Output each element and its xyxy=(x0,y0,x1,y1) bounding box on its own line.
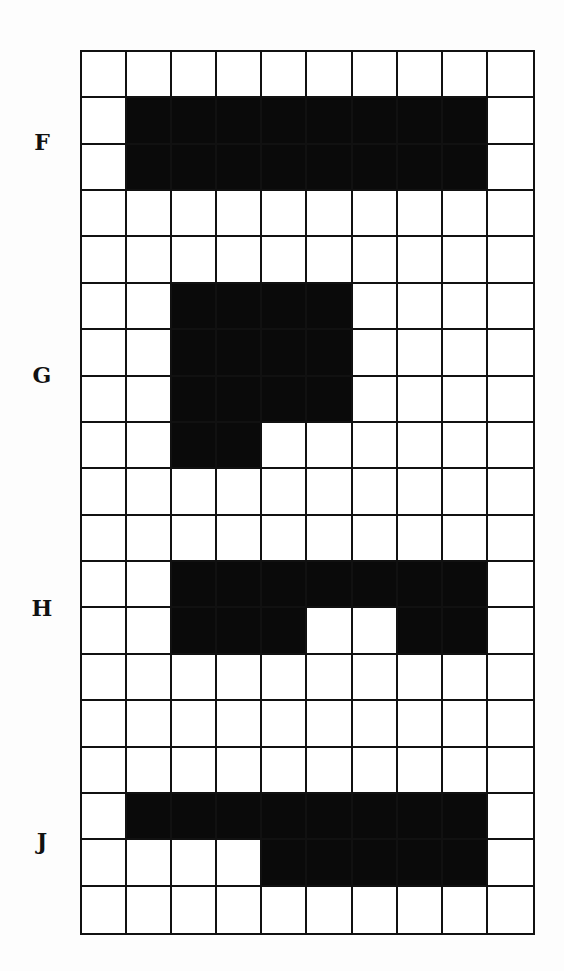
filled-cell xyxy=(353,840,398,886)
empty-cell xyxy=(488,748,533,794)
empty-cell xyxy=(488,377,533,423)
empty-cell xyxy=(488,191,533,237)
empty-cell xyxy=(127,887,172,933)
empty-cell xyxy=(398,330,443,376)
empty-cell xyxy=(353,469,398,515)
empty-cell xyxy=(307,516,352,562)
empty-cell xyxy=(172,840,217,886)
empty-cell xyxy=(307,701,352,747)
empty-cell xyxy=(127,516,172,562)
empty-cell xyxy=(82,608,127,654)
empty-cell xyxy=(353,377,398,423)
empty-cell xyxy=(307,237,352,283)
filled-cell xyxy=(217,330,262,376)
empty-cell xyxy=(172,655,217,701)
figure-label: F xyxy=(30,129,54,155)
filled-cell xyxy=(172,794,217,840)
filled-cell xyxy=(443,840,488,886)
empty-cell xyxy=(217,840,262,886)
filled-cell xyxy=(262,377,307,423)
filled-cell xyxy=(443,145,488,191)
empty-cell xyxy=(353,52,398,98)
empty-cell xyxy=(353,748,398,794)
empty-cell xyxy=(217,748,262,794)
empty-cell xyxy=(443,237,488,283)
empty-cell xyxy=(82,237,127,283)
filled-cell xyxy=(443,608,488,654)
empty-cell xyxy=(307,191,352,237)
empty-cell xyxy=(443,516,488,562)
empty-cell xyxy=(353,330,398,376)
empty-cell xyxy=(443,52,488,98)
filled-cell xyxy=(262,562,307,608)
filled-cell xyxy=(172,377,217,423)
empty-cell xyxy=(443,330,488,376)
filled-cell xyxy=(398,794,443,840)
empty-cell xyxy=(488,237,533,283)
empty-cell xyxy=(353,191,398,237)
empty-cell xyxy=(82,191,127,237)
empty-cell xyxy=(488,655,533,701)
empty-cell xyxy=(172,748,217,794)
filled-cell xyxy=(217,423,262,469)
filled-cell xyxy=(307,562,352,608)
filled-cell xyxy=(262,840,307,886)
filled-cell xyxy=(307,98,352,144)
filled-cell xyxy=(127,794,172,840)
empty-cell xyxy=(172,516,217,562)
empty-cell xyxy=(172,191,217,237)
empty-cell xyxy=(488,794,533,840)
empty-cell xyxy=(398,748,443,794)
empty-cell xyxy=(488,701,533,747)
empty-cell xyxy=(217,469,262,515)
filled-cell xyxy=(353,145,398,191)
empty-cell xyxy=(353,701,398,747)
empty-cell xyxy=(353,284,398,330)
empty-cell xyxy=(488,145,533,191)
empty-cell xyxy=(443,284,488,330)
empty-cell xyxy=(398,237,443,283)
filled-cell xyxy=(172,423,217,469)
filled-cell xyxy=(172,330,217,376)
empty-cell xyxy=(172,887,217,933)
filled-cell xyxy=(217,284,262,330)
empty-cell xyxy=(443,377,488,423)
empty-cell xyxy=(217,887,262,933)
empty-cell xyxy=(127,701,172,747)
empty-cell xyxy=(353,887,398,933)
empty-cell xyxy=(307,423,352,469)
empty-cell xyxy=(82,145,127,191)
filled-cell xyxy=(217,377,262,423)
filled-cell xyxy=(262,608,307,654)
empty-cell xyxy=(127,377,172,423)
empty-cell xyxy=(488,284,533,330)
empty-cell xyxy=(82,423,127,469)
empty-cell xyxy=(262,469,307,515)
filled-cell xyxy=(307,794,352,840)
filled-cell xyxy=(262,330,307,376)
empty-cell xyxy=(82,887,127,933)
empty-cell xyxy=(398,701,443,747)
empty-cell xyxy=(172,701,217,747)
empty-cell xyxy=(127,284,172,330)
filled-cell xyxy=(262,284,307,330)
empty-cell xyxy=(82,840,127,886)
empty-cell xyxy=(82,655,127,701)
empty-cell xyxy=(398,377,443,423)
empty-cell xyxy=(353,423,398,469)
filled-cell xyxy=(262,794,307,840)
empty-cell xyxy=(443,423,488,469)
empty-cell xyxy=(262,748,307,794)
empty-cell xyxy=(443,469,488,515)
empty-cell xyxy=(488,608,533,654)
filled-cell xyxy=(217,608,262,654)
empty-cell xyxy=(127,562,172,608)
pattern-grid xyxy=(80,50,535,935)
empty-cell xyxy=(127,840,172,886)
empty-cell xyxy=(262,701,307,747)
filled-cell xyxy=(217,98,262,144)
empty-cell xyxy=(82,516,127,562)
filled-cell xyxy=(307,377,352,423)
empty-cell xyxy=(443,655,488,701)
filled-cell xyxy=(443,562,488,608)
